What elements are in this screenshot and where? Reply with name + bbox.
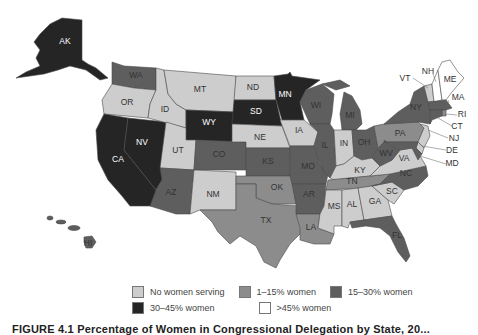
- legend: No women serving 1–15% women 15–30% wome…: [132, 284, 452, 316]
- label-wi: WI: [311, 100, 321, 110]
- label-nd: ND: [247, 82, 259, 92]
- state-ak: [16, 18, 108, 80]
- label-ma: MA: [452, 92, 465, 102]
- label-tn: TN: [346, 176, 357, 186]
- legend-label-high: 30–45% women: [150, 303, 215, 313]
- legend-item-low: 1–15% women: [239, 286, 317, 298]
- label-me: ME: [444, 74, 457, 84]
- legend-label-top: >45% women: [277, 303, 332, 313]
- label-co: CO: [213, 149, 226, 159]
- legend-row-2: 30–45% women >45% women: [132, 300, 452, 316]
- label-wa: WA: [129, 70, 143, 80]
- label-ca: CA: [112, 154, 124, 164]
- label-il: IL: [321, 140, 328, 150]
- legend-swatch-low: [239, 286, 251, 298]
- label-va: VA: [399, 153, 410, 163]
- label-ut: UT: [172, 145, 183, 155]
- label-sc: SC: [386, 186, 398, 196]
- legend-item-none: No women serving: [132, 286, 225, 298]
- label-or: OR: [121, 97, 134, 107]
- label-ar: AR: [303, 189, 315, 199]
- label-id: ID: [161, 104, 170, 114]
- label-mo: MO: [301, 161, 315, 171]
- label-nc: NC: [400, 168, 412, 178]
- figure-caption: FIGURE 4.1 Percentage of Women in Congre…: [12, 323, 430, 335]
- label-ne: NE: [254, 132, 266, 142]
- label-fl: FL: [392, 230, 402, 240]
- label-ct: CT: [451, 121, 462, 131]
- label-az: AZ: [166, 187, 177, 197]
- label-hi: HI: [84, 238, 93, 248]
- state-ct: [430, 110, 442, 124]
- label-ms: MS: [328, 201, 341, 211]
- legend-item-top: >45% women: [259, 302, 332, 314]
- legend-swatch-high: [132, 302, 144, 314]
- legend-item-mid: 15–30% women: [330, 286, 413, 298]
- label-nj: NJ: [449, 133, 459, 143]
- label-ks: KS: [262, 156, 274, 166]
- legend-item-high: 30–45% women: [132, 302, 215, 314]
- label-md: MD: [445, 158, 458, 168]
- label-vt: VT: [400, 73, 411, 83]
- label-ak: AK: [59, 36, 71, 46]
- label-ky: KY: [354, 165, 366, 175]
- state-ri: [442, 110, 446, 116]
- label-ga: GA: [369, 196, 382, 206]
- label-mt: MT: [194, 84, 206, 94]
- label-mi: MI: [345, 110, 354, 120]
- label-ny: NY: [410, 102, 422, 112]
- label-in: IN: [340, 138, 349, 148]
- legend-row-1: No women serving 1–15% women 15–30% wome…: [132, 284, 452, 300]
- label-pa: PA: [395, 128, 406, 138]
- label-oh: OH: [358, 137, 371, 147]
- legend-swatch-mid: [330, 286, 342, 298]
- label-nm: NM: [206, 189, 219, 199]
- label-nv: NV: [136, 137, 148, 147]
- label-tx: TX: [261, 215, 272, 225]
- legend-label-low: 1–15% women: [257, 287, 317, 297]
- label-wv: WV: [379, 148, 393, 158]
- legend-swatch-top: [259, 302, 271, 314]
- legend-label-none: No women serving: [150, 287, 225, 297]
- label-al: AL: [347, 199, 358, 209]
- label-ok: OK: [271, 182, 284, 192]
- label-sd: SD: [250, 106, 262, 116]
- legend-swatch-none: [132, 286, 144, 298]
- label-mn: MN: [278, 89, 291, 99]
- label-la: LA: [306, 222, 317, 232]
- label-nh: NH: [422, 66, 434, 76]
- label-de: DE: [446, 145, 458, 155]
- label-wy: WY: [202, 117, 216, 127]
- label-ri: RI: [458, 109, 467, 119]
- legend-label-mid: 15–30% women: [348, 287, 413, 297]
- label-ia: IA: [295, 125, 303, 135]
- state-ny: [384, 86, 432, 124]
